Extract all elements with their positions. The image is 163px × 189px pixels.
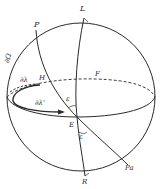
epsilon-upper-arc xyxy=(68,106,76,108)
label-E: E xyxy=(69,122,74,129)
label-epsilon-lower: ε xyxy=(79,134,83,141)
meridian-L-R xyxy=(76,18,85,176)
equator-back-dashed xyxy=(7,79,155,97)
label-L: L xyxy=(80,5,85,13)
label-F: F xyxy=(95,71,100,78)
label-R: R xyxy=(82,179,87,186)
celestial-sphere-diagram xyxy=(0,0,163,189)
label-H: H xyxy=(39,75,45,82)
label-d-lambda: ∂λ xyxy=(20,77,28,84)
equator-front xyxy=(7,97,155,117)
R-tick xyxy=(85,173,89,176)
arrow-head-icon xyxy=(58,110,65,115)
great-circle-P-Pa xyxy=(36,30,128,165)
label-Pa: Pa xyxy=(125,165,134,172)
label-P: P xyxy=(34,21,39,29)
label-epsilon-upper: ε xyxy=(66,96,70,103)
L-tick xyxy=(84,18,88,22)
label-d-lambda-prime: ∂λ' xyxy=(35,100,45,107)
